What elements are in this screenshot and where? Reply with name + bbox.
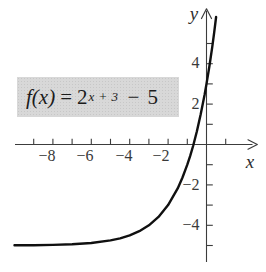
x-axis-ticks [34,139,226,145]
formula-equals-sign: = [60,85,72,110]
formula-box: f(x) = 2 x + 3 − 5 [17,77,179,117]
y-tick-label-4: 4 [192,54,200,71]
y-tick-label--4: −4 [182,216,199,233]
y-axis-label: y [188,3,199,24]
function-graph-canvas: −8 −6 −4 −2 x 4 2 −2 −4 y [0,0,266,272]
figure-exponential-graph: −8 −6 −4 −2 x 4 2 −2 −4 y f(x) = 2 x + 3… [0,0,266,272]
x-tick-label--4: −4 [115,147,132,164]
formula-base: 2 [77,85,88,110]
formula-exponent: x + 3 [89,89,119,105]
formula-function-name: f(x) [26,85,55,110]
x-tick-label--8: −8 [38,147,55,164]
formula-minus-sign: − [128,85,140,110]
function-curve [15,17,217,245]
y-tick-label--2: −2 [182,176,199,193]
x-tick-label--2: −2 [152,147,169,164]
x-axis-label: x [245,151,255,172]
x-tick-label--6: −6 [76,147,93,164]
x-axis: −8 −6 −4 −2 x [15,139,257,172]
y-tick-label-2: 2 [192,95,200,112]
formula-constant: 5 [147,85,158,110]
